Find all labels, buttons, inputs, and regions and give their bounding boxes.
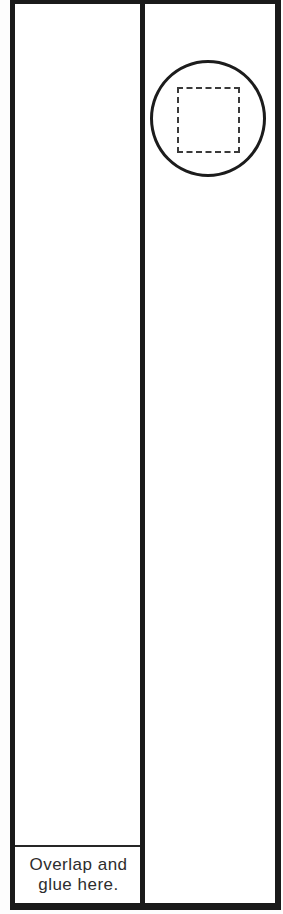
bookmark-template-sheet: Overlap and glue here. (0, 0, 283, 914)
glue-label-line2: glue here. (38, 875, 119, 895)
left-strip: Overlap and glue here. (10, 0, 147, 910)
dashed-square-icon (177, 87, 240, 153)
right-strip (140, 0, 281, 910)
glue-area: Overlap and glue here. (15, 845, 142, 903)
glue-label-line1: Overlap and (29, 855, 127, 875)
